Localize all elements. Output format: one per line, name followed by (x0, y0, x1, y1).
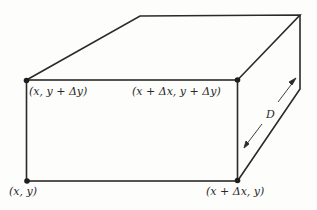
label-front-top-left: (x, y + Δy) (29, 85, 87, 98)
label-front-bottom-right: (x + Δx, y) (206, 185, 264, 198)
label-front-bottom-left: (x, y) (9, 185, 37, 198)
vertex-front-bottom-left (24, 178, 30, 184)
box-diagram: D (x, y + Δy) (x + Δx, y + Δy) (x, y) (x… (0, 0, 317, 210)
vertex-front-top-left (24, 78, 30, 84)
label-front-top-right: (x + Δx, y + Δy) (132, 85, 221, 98)
right-face-edges (238, 15, 301, 181)
vertex-front-top-right (235, 77, 241, 83)
top-face-edges (27, 15, 301, 80)
depth-label: D (265, 108, 275, 121)
vertex-front-bottom-right (235, 178, 241, 184)
